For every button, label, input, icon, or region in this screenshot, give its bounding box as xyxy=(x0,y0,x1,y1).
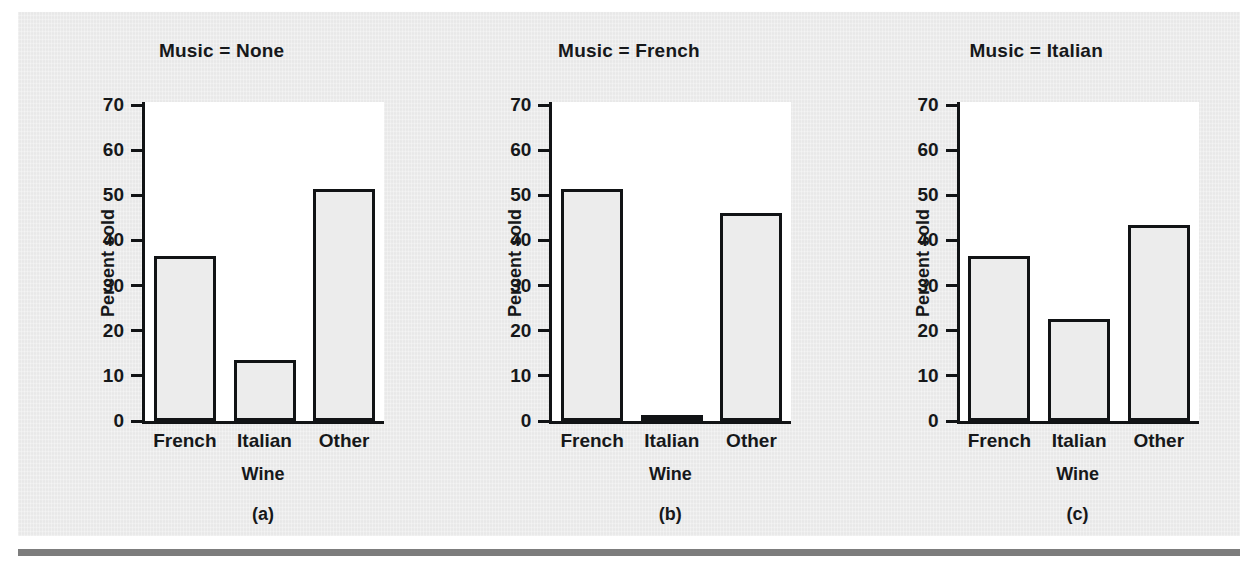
y-axis-tick: 50 xyxy=(538,194,549,197)
y-axis-tick: 40 xyxy=(946,239,957,242)
y-axis-tick: 70 xyxy=(946,104,957,107)
x-axis-tick-labels: FrenchItalianOther xyxy=(960,430,1199,456)
bar-italian xyxy=(641,415,703,421)
y-axis-label: Percent sold xyxy=(98,209,119,317)
axes-area: 010203040506070Percent sold xyxy=(549,102,791,424)
panel-title: Music = Italian xyxy=(833,40,1240,62)
y-axis-tick-label: 0 xyxy=(113,410,124,432)
y-axis-tick-label: 50 xyxy=(510,184,531,206)
y-axis-tick: 10 xyxy=(538,374,549,377)
chart-panel-b: Music = French010203040506070Percent sol… xyxy=(425,12,832,536)
bar-other xyxy=(720,213,782,421)
y-axis-tick-label: 70 xyxy=(103,94,124,116)
x-axis-line xyxy=(549,421,791,424)
y-axis-tick-label: 10 xyxy=(510,365,531,387)
y-axis-tick: 20 xyxy=(946,329,957,332)
y-axis-tick: 0 xyxy=(538,420,549,423)
y-axis-tick: 30 xyxy=(538,284,549,287)
y-axis-tick: 60 xyxy=(131,149,142,152)
x-axis-tick-label: French xyxy=(552,430,632,452)
y-axis-tick: 60 xyxy=(538,149,549,152)
axes-area: 010203040506070Percent sold xyxy=(142,102,384,424)
y-axis-tick: 20 xyxy=(131,329,142,332)
y-axis-tick: 10 xyxy=(946,374,957,377)
y-axis-tick-label: 60 xyxy=(917,139,938,161)
x-axis-tick-label: Italian xyxy=(632,430,712,452)
y-axis-tick-label: 50 xyxy=(917,184,938,206)
x-axis-label: Wine xyxy=(142,464,384,485)
chart-panel-c: Music = Italian010203040506070Percent so… xyxy=(833,12,1240,536)
bar-group xyxy=(960,102,1199,421)
panel-caption: (b) xyxy=(549,504,791,525)
x-axis-tick-label: French xyxy=(960,430,1040,452)
y-axis-tick: 50 xyxy=(131,194,142,197)
x-axis-tick-labels: FrenchItalianOther xyxy=(552,430,791,456)
y-axis-tick-label: 70 xyxy=(917,94,938,116)
y-axis-tick: 10 xyxy=(131,374,142,377)
x-axis-line xyxy=(142,421,384,424)
x-axis-tick-label: Italian xyxy=(1039,430,1119,452)
y-axis-tick-label: 70 xyxy=(510,94,531,116)
y-axis-tick: 0 xyxy=(131,420,142,423)
y-axis-tick: 50 xyxy=(946,194,957,197)
y-axis-tick-label: 50 xyxy=(103,184,124,206)
y-axis-tick: 70 xyxy=(538,104,549,107)
x-axis-tick-labels: FrenchItalianOther xyxy=(145,430,384,456)
y-axis-tick-label: 20 xyxy=(917,320,938,342)
x-axis-tick-label: Other xyxy=(1119,430,1199,452)
y-axis-tick: 20 xyxy=(538,329,549,332)
x-axis-line xyxy=(957,421,1199,424)
chart-panel-a: Music = None010203040506070Percent soldF… xyxy=(18,12,425,536)
y-axis-tick-label: 20 xyxy=(103,320,124,342)
bar-group xyxy=(552,102,791,421)
x-axis-tick-label: French xyxy=(145,430,225,452)
axes-area: 010203040506070Percent sold xyxy=(957,102,1199,424)
y-axis-tick: 40 xyxy=(131,239,142,242)
x-axis-tick-label: Italian xyxy=(225,430,305,452)
panel-caption: (c) xyxy=(957,504,1199,525)
y-axis-tick: 30 xyxy=(131,284,142,287)
x-axis-tick-label: Other xyxy=(712,430,792,452)
panel-title: Music = French xyxy=(425,40,832,62)
y-axis-tick-label: 10 xyxy=(917,365,938,387)
y-axis-tick-label: 20 xyxy=(510,320,531,342)
y-axis-tick: 30 xyxy=(946,284,957,287)
bottom-rule xyxy=(18,549,1240,556)
panel-title: Music = None xyxy=(18,40,425,62)
y-axis-tick-label: 0 xyxy=(928,410,939,432)
x-axis-label: Wine xyxy=(549,464,791,485)
bar-other xyxy=(1128,225,1190,421)
y-axis-tick-label: 0 xyxy=(521,410,532,432)
y-axis-tick-label: 60 xyxy=(510,139,531,161)
y-axis-tick: 70 xyxy=(131,104,142,107)
panel-row: Music = None010203040506070Percent soldF… xyxy=(18,12,1240,536)
y-axis-tick: 60 xyxy=(946,149,957,152)
bar-french xyxy=(968,256,1030,421)
x-axis-tick-label: Other xyxy=(304,430,384,452)
bar-group xyxy=(145,102,384,421)
y-axis-tick-label: 10 xyxy=(103,365,124,387)
bar-italian xyxy=(1048,319,1110,421)
y-axis-label: Percent sold xyxy=(912,209,933,317)
x-axis-label: Wine xyxy=(957,464,1199,485)
panel-caption: (a) xyxy=(142,504,384,525)
bar-french xyxy=(154,256,216,421)
y-axis-label: Percent sold xyxy=(505,209,526,317)
y-axis-tick: 40 xyxy=(538,239,549,242)
bar-italian xyxy=(234,360,296,421)
bar-other xyxy=(313,189,375,421)
y-axis-tick: 0 xyxy=(946,420,957,423)
figure-canvas: Music = None010203040506070Percent soldF… xyxy=(0,0,1256,574)
bar-french xyxy=(561,189,623,421)
figure-paper: Music = None010203040506070Percent soldF… xyxy=(18,12,1240,536)
y-axis-tick-label: 60 xyxy=(103,139,124,161)
